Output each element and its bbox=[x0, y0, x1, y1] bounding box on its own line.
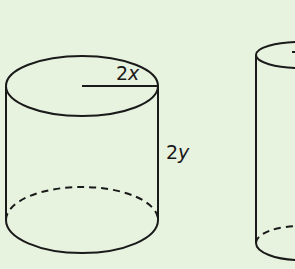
radius-label: 2x bbox=[116, 62, 140, 84]
cylinder-b-top-ellipse bbox=[256, 42, 295, 68]
cylinders-diagram: 2x 2y bbox=[0, 0, 295, 269]
cylinder-a-bottom-back-arc bbox=[6, 187, 158, 220]
height-label: 2y bbox=[166, 141, 190, 163]
cylinder-a bbox=[6, 56, 158, 253]
cylinder-b bbox=[256, 42, 295, 260]
cylinder-a-bottom-front-arc bbox=[6, 220, 158, 253]
cylinder-b-bottom-front-arc bbox=[256, 243, 295, 260]
cylinder-b-bottom-back-arc bbox=[256, 226, 295, 243]
